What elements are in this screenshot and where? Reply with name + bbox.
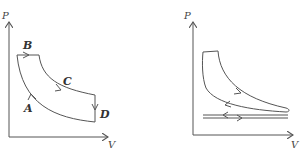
right-p-axis-label: P [184, 11, 191, 21]
pv-diagrams-canvas [0, 0, 303, 155]
right-v-axis-label: V [291, 140, 298, 150]
left-v-axis-label: V [108, 140, 115, 150]
point-label-a: A [24, 103, 33, 114]
right-diagram [193, 22, 293, 135]
arrow-icon-c [55, 84, 61, 91]
point-label-c: C [63, 76, 72, 87]
point-label-b: B [23, 40, 32, 51]
point-label-d: D [100, 109, 110, 120]
right-power-loop [202, 51, 289, 112]
left-p-axis-label: P [2, 11, 9, 21]
